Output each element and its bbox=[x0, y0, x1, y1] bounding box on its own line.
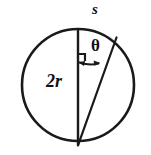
angle-label-theta: θ bbox=[91, 37, 100, 54]
diameter-label-2r: 2r bbox=[46, 72, 62, 90]
circle-diagram-svg bbox=[0, 0, 151, 155]
arc-length-label-s: s bbox=[92, 2, 98, 17]
figure-canvas: s θ 2r bbox=[0, 0, 151, 155]
angle-arc-group bbox=[78, 60, 100, 66]
